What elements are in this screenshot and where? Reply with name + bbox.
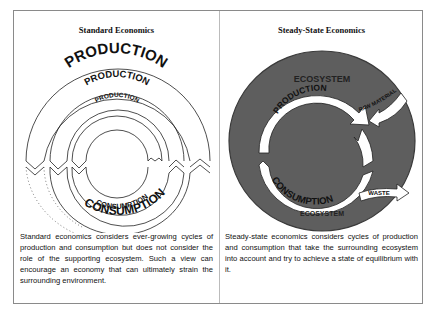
production-middle-label: PRODUCTION [82, 68, 152, 87]
standard-economics-spiral-diagram: PRODUCTION PRODUCTION PRODUCTION CONSUMP… [14, 33, 219, 233]
production-outer-label: PRODUCTION [61, 39, 171, 71]
steady-state-economics-caption: Steady-state economics considers cycles … [225, 231, 418, 275]
waste-label: WASTE [368, 190, 389, 196]
svg-text:PRODUCTION: PRODUCTION [93, 91, 141, 104]
ecosystem-bottom-label: ECOSYSTEM [300, 210, 344, 217]
steady-state-ecosystem-diagram: ECOSYSTEM PRODUCTION RAW MATERIALS CONSU… [219, 33, 424, 233]
svg-text:PRODUCTION: PRODUCTION [82, 68, 152, 87]
standard-economics-panel: Standard Economics [14, 11, 220, 303]
standard-economics-caption: Standard economics considers ever-growin… [20, 231, 213, 286]
steady-state-economics-panel: Steady-State Economics [219, 11, 424, 303]
production-inner-label: PRODUCTION [93, 91, 141, 104]
ecosystem-top-label: ECOSYSTEM [294, 74, 351, 84]
figure-frame: Standard Economics [13, 10, 423, 304]
